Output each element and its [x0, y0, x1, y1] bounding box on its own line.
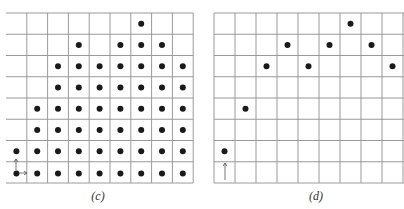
point-dot — [138, 84, 144, 90]
caption-c: (c) — [91, 189, 104, 204]
point-dot — [117, 42, 123, 48]
point-dot — [306, 63, 312, 69]
point-dot — [222, 148, 228, 154]
point-dot — [243, 106, 249, 112]
point-dot — [138, 148, 144, 154]
point-dot — [76, 170, 82, 176]
point-dot — [13, 170, 19, 176]
point-dot — [76, 84, 82, 90]
point-dot — [76, 106, 82, 112]
point-dot — [55, 148, 61, 154]
point-dot — [180, 106, 186, 112]
point-dot — [55, 127, 61, 133]
point-dot — [55, 106, 61, 112]
point-dot — [138, 106, 144, 112]
point-dot — [369, 42, 375, 48]
point-dot — [159, 148, 165, 154]
grid-diagrams — [0, 0, 404, 209]
point-dot — [264, 63, 270, 69]
point-dot — [327, 42, 333, 48]
point-dot — [159, 42, 165, 48]
caption-d: (d) — [309, 189, 323, 204]
point-dot — [97, 170, 103, 176]
point-dot — [180, 170, 186, 176]
point-dot — [34, 127, 40, 133]
figure — [0, 0, 404, 209]
point-dot — [180, 127, 186, 133]
point-dot — [117, 170, 123, 176]
point-dot — [138, 63, 144, 69]
point-dot — [13, 148, 19, 154]
point-dot — [180, 63, 186, 69]
point-dot — [97, 106, 103, 112]
point-dot — [159, 170, 165, 176]
point-dot — [348, 21, 354, 27]
point-dot — [159, 127, 165, 133]
point-dot — [34, 106, 40, 112]
point-dot — [34, 170, 40, 176]
point-dot — [159, 106, 165, 112]
point-dot — [180, 84, 186, 90]
point-dot — [117, 106, 123, 112]
point-dot — [159, 63, 165, 69]
point-dot — [138, 21, 144, 27]
point-dot — [117, 84, 123, 90]
point-dot — [138, 42, 144, 48]
point-dot — [117, 148, 123, 154]
point-dot — [97, 84, 103, 90]
point-dot — [97, 63, 103, 69]
point-dot — [138, 127, 144, 133]
point-dot — [97, 127, 103, 133]
point-dot — [55, 63, 61, 69]
panel-c-grid — [6, 13, 193, 183]
point-dot — [159, 84, 165, 90]
point-dot — [138, 170, 144, 176]
point-dot — [76, 42, 82, 48]
point-dot — [76, 63, 82, 69]
point-dot — [180, 148, 186, 154]
point-dot — [117, 63, 123, 69]
point-dot — [97, 148, 103, 154]
point-dot — [285, 42, 291, 48]
point-dot — [55, 170, 61, 176]
panel-d-grid — [214, 13, 404, 183]
point-dot — [34, 148, 40, 154]
point-dot — [55, 84, 61, 90]
point-dot — [76, 127, 82, 133]
point-dot — [390, 63, 396, 69]
point-dot — [117, 127, 123, 133]
point-dot — [76, 148, 82, 154]
